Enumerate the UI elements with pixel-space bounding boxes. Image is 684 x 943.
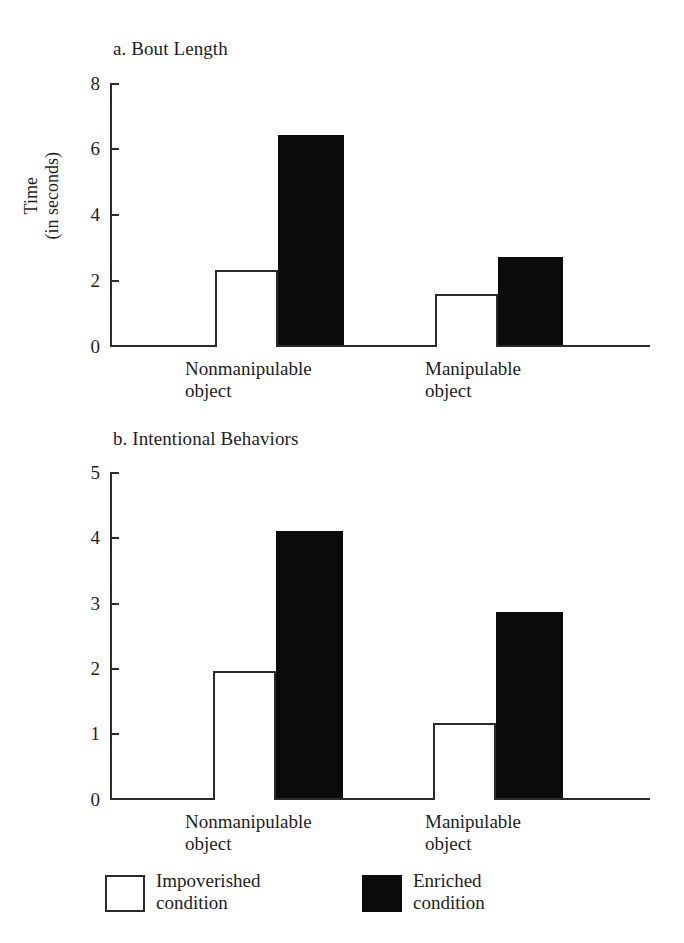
panel-b-tick-4 [110, 537, 119, 539]
panel-b-intentional-behaviors: b. Intentional Behaviors 5 4 3 2 1 0 Non… [0, 0, 684, 870]
panel-b-tick-2 [110, 668, 119, 670]
panel-b-category-label-manipulable: Manipulable object [425, 811, 521, 856]
panel-b-title: b. Intentional Behaviors [113, 428, 299, 450]
panel-b-bar-impoverished-nonmanipulable [213, 671, 276, 800]
panel-b-bar-enriched-manipulable [496, 612, 563, 798]
figure-bar-charts: a. Bout Length Time (in seconds) 8 6 4 2… [0, 0, 684, 943]
panel-b-bar-enriched-nonmanipulable [276, 531, 343, 798]
panel-b-tick-5 [110, 472, 119, 474]
legend-item-enriched: Enriched condition [362, 870, 485, 915]
panel-b-tick-label-4: 4 [76, 528, 100, 547]
legend-label-impoverished: Impoverished condition [156, 870, 260, 915]
legend: Impoverished condition Enriched conditio… [105, 870, 575, 930]
panel-b-tick-label-2: 2 [76, 659, 100, 678]
legend-item-impoverished: Impoverished condition [105, 870, 260, 915]
legend-swatch-filled-icon [362, 875, 402, 912]
panel-b-tick-label-5: 5 [76, 463, 100, 482]
panel-b-tick-label-0: 0 [76, 790, 100, 809]
panel-b-x-axis [110, 798, 650, 800]
panel-b-bar-impoverished-manipulable [433, 723, 496, 800]
legend-swatch-open-icon [105, 875, 145, 912]
panel-b-tick-3 [110, 603, 119, 605]
panel-b-tick-label-3: 3 [76, 594, 100, 613]
legend-label-enriched: Enriched condition [413, 870, 485, 915]
panel-b-category-label-nonmanipulable: Nonmanipulable object [185, 811, 312, 856]
panel-b-tick-1 [110, 733, 119, 735]
panel-b-tick-label-1: 1 [76, 724, 100, 743]
panel-b-y-axis [110, 472, 112, 800]
